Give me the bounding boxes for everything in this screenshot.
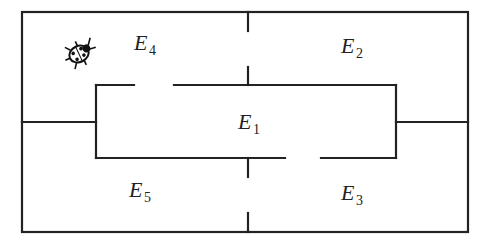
room-label-e1: E 1 <box>237 109 260 137</box>
svg-text:E: E <box>128 177 143 202</box>
maze-diagram: E 4 E 2 E 1 E 5 E 3 <box>0 0 496 248</box>
svg-text:E: E <box>340 180 355 205</box>
svg-text:3: 3 <box>356 193 363 208</box>
svg-text:E: E <box>340 33 355 58</box>
svg-text:1: 1 <box>253 122 260 137</box>
room-label-e4: E 4 <box>133 30 156 58</box>
svg-text:2: 2 <box>356 46 363 61</box>
room-label-e3: E 3 <box>340 180 363 208</box>
svg-text:4: 4 <box>149 43 156 58</box>
room-label-e2: E 2 <box>340 33 363 61</box>
svg-text:5: 5 <box>144 190 151 205</box>
room-label-e5: E 5 <box>128 177 151 205</box>
svg-text:E: E <box>237 109 252 134</box>
svg-text:E: E <box>133 30 148 55</box>
ladybug-icon <box>60 35 101 73</box>
